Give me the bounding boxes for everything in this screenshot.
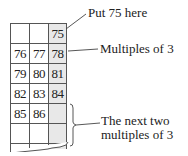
torn-edge — [10, 142, 68, 153]
brace-icon — [70, 104, 76, 146]
label-put-75: Put 75 here — [88, 6, 147, 20]
leader-line-75 — [66, 14, 86, 29]
label-multiples-of-3: Multiples of 3 — [100, 42, 174, 56]
label-next-two-line1: The next two — [101, 114, 170, 128]
leader-line-next-two — [76, 123, 100, 125]
label-next-two-line2: multiples of 3 — [101, 128, 173, 142]
leader-line-multiples — [68, 49, 98, 51]
